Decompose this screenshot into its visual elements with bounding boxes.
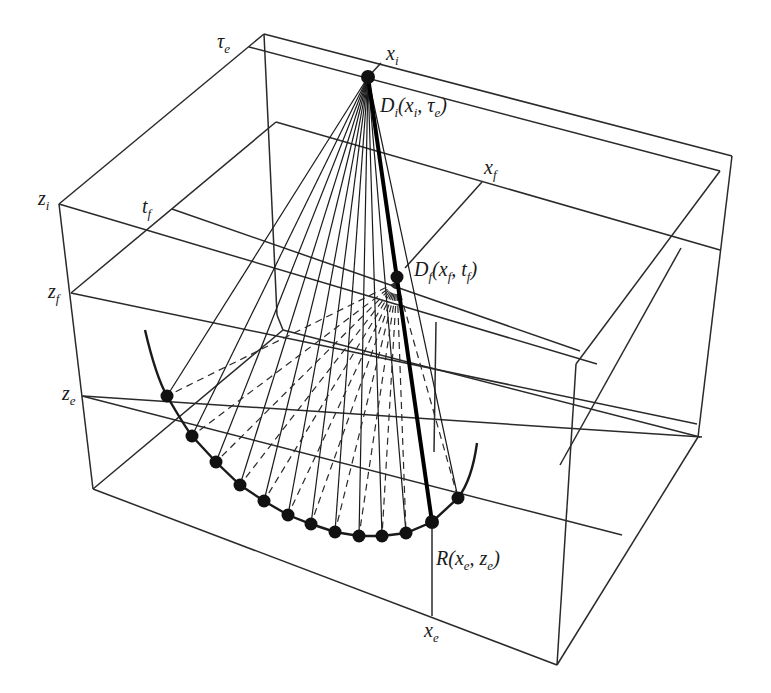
label-D-f: Df(xf, tf) — [413, 258, 477, 284]
label-D-i: Di(xi, τe) — [379, 94, 447, 120]
label-z-i: zi — [37, 187, 50, 213]
label-R: R(xe, ze) — [435, 547, 500, 573]
reflector-points — [161, 390, 465, 543]
label-x-i: xi — [385, 42, 399, 68]
label-z-e: ze — [61, 382, 76, 408]
label-x-f: xf — [483, 156, 499, 182]
wireframe-box — [59, 34, 732, 665]
label-z-f: zf — [47, 280, 62, 306]
point-D-i — [361, 70, 375, 84]
label-x-e: xe — [423, 619, 439, 645]
label-t-f: tf — [142, 195, 154, 221]
point-D-f — [391, 271, 404, 284]
focusing-diagram: τe xi Di(xi, τe) zi tf xf Df(xf, tf) zf … — [0, 0, 771, 693]
ray-fan-solid — [167, 77, 458, 536]
label-tau-e: τe — [217, 30, 230, 56]
